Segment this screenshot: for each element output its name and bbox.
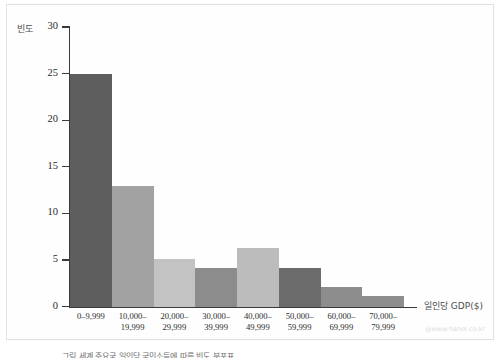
bar	[195, 268, 237, 307]
bar	[112, 186, 154, 307]
bar-series	[70, 27, 404, 307]
y-tick-label: 10	[12, 206, 58, 217]
y-tick-mark	[62, 73, 70, 74]
y-tick-mark	[62, 120, 70, 121]
y-tick-label: 25	[12, 67, 58, 78]
y-tick-mark	[62, 166, 70, 167]
plot-area: 빈도 051015202530 0–9,99910,000– 19,99920,…	[0, 0, 502, 358]
y-tick-label: 30	[12, 20, 58, 31]
y-tick-mark	[62, 213, 70, 214]
y-tick-label: 15	[12, 160, 58, 171]
y-tick-label: 20	[12, 113, 58, 124]
bar	[70, 74, 112, 307]
x-tick-label: 70,000– 79,999	[356, 311, 410, 332]
watermark: @www.hanol.co.kr	[425, 325, 485, 333]
histogram-figure: 빈도 051015202530 0–9,99910,000– 19,99920,…	[0, 0, 502, 358]
y-tick-label: 5	[12, 253, 58, 264]
bar	[154, 259, 196, 307]
bar	[237, 248, 279, 307]
bar	[321, 287, 363, 308]
bar	[362, 296, 404, 307]
figure-caption: 그림 세계 주요국 일인당 국민소득에 따른 빈도 분포표	[62, 350, 234, 358]
y-tick-mark	[62, 306, 70, 307]
y-tick-mark	[62, 259, 70, 260]
x-axis-label: 일인당 GDP($)	[424, 299, 483, 312]
y-tick-label: 0	[12, 300, 58, 311]
y-tick-mark	[62, 26, 70, 27]
bar	[279, 268, 321, 307]
